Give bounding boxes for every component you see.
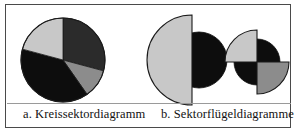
figure-frame: a. Kreissektordiagramm b. Sektorflügeldi… — [5, 4, 291, 128]
caption-row: a. Kreissektordiagramm b. Sektorflügeldi… — [6, 104, 292, 128]
wing-sector-medium — [257, 62, 289, 94]
wing-sector-light — [225, 30, 257, 62]
chart-kreissektordiagramm — [16, 14, 110, 106]
caption-b: b. Sektorflügeldiagramme — [161, 107, 294, 122]
figure-drawing-area — [6, 5, 292, 103]
figure-page: a. Kreissektordiagramm b. Sektorflügeldi… — [0, 0, 301, 137]
chart-sektorfluegeldiagramm-right — [216, 21, 292, 101]
caption-a: a. Kreissektordiagramm — [23, 107, 145, 122]
wing-sector-light — [147, 15, 192, 105]
